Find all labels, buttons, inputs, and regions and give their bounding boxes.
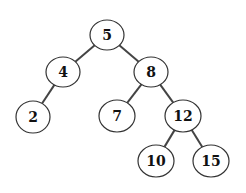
node-label: 7 <box>112 108 122 124</box>
tree-node-5: 5 <box>90 20 124 50</box>
node-label: 12 <box>173 108 192 124</box>
edge-5-8 <box>119 45 138 61</box>
node-label: 15 <box>201 153 220 169</box>
tree-node-2: 2 <box>16 101 50 133</box>
node-label: 8 <box>146 64 156 80</box>
tree-node-12: 12 <box>165 100 201 132</box>
edge-5-4 <box>75 45 94 61</box>
edge-12-15 <box>192 130 203 147</box>
edge-4-2 <box>42 85 54 104</box>
binary-tree-diagram: 54827121015 <box>0 0 246 193</box>
tree-node-10: 10 <box>138 145 174 177</box>
tree-node-8: 8 <box>134 57 168 87</box>
tree-node-15: 15 <box>193 145 229 177</box>
tree-node-7: 7 <box>99 100 135 132</box>
node-label: 10 <box>146 153 166 169</box>
edge-8-12 <box>160 85 173 103</box>
tree-nodes: 54827121015 <box>16 20 229 177</box>
node-label: 4 <box>58 64 68 80</box>
edge-8-7 <box>127 84 141 102</box>
node-label: 2 <box>28 109 38 125</box>
tree-node-4: 4 <box>46 57 80 87</box>
node-label: 5 <box>102 27 112 43</box>
edge-12-10 <box>164 130 174 147</box>
